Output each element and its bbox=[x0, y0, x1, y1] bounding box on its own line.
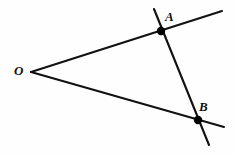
point-label-a: A bbox=[165, 10, 174, 23]
vertex-label-o: O bbox=[14, 64, 23, 77]
point-label-b: B bbox=[199, 100, 208, 113]
geometry-figure: O A B bbox=[0, 0, 235, 156]
point-a-dot bbox=[157, 27, 165, 35]
figure-drawing-surface bbox=[0, 0, 235, 156]
point-b-dot bbox=[194, 116, 202, 124]
upper-ray-line bbox=[31, 11, 222, 72]
